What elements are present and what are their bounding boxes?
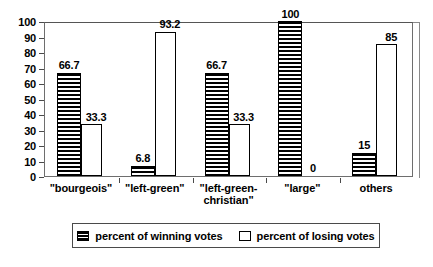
outer-frame-right bbox=[419, 22, 420, 178]
bar-losing-bourgeois bbox=[81, 124, 102, 176]
bar-value-losing-bourgeois: 33.3 bbox=[77, 112, 115, 123]
x-axis-label-bourgeois: "bourgeois" bbox=[44, 182, 118, 194]
y-axis: 100 90 80 70 60 50 40 30 20 10 0 bbox=[0, 22, 36, 177]
hatched-swatch-icon bbox=[77, 231, 89, 241]
x-axis-label-line-1: "left-green- bbox=[200, 182, 258, 194]
legend: percent of winning votes percent of losi… bbox=[72, 223, 380, 248]
legend-label-losing: percent of losing votes bbox=[257, 230, 375, 242]
y-tick-label-60: 60 bbox=[0, 79, 36, 90]
plot-area: 66.7 33.3 6.8 93.2 66.7 33.3 100 bbox=[44, 22, 413, 177]
bar-winning-others bbox=[352, 153, 376, 176]
x-axis-label-left-green-christian: "left-green-christian" bbox=[192, 182, 266, 206]
plot-inner: 66.7 33.3 6.8 93.2 66.7 33.3 100 bbox=[45, 23, 412, 176]
legend-entry-winning: percent of winning votes bbox=[77, 230, 222, 242]
bar-group-left-green-christian: 66.7 33.3 bbox=[193, 23, 267, 176]
x-axis-label-left-green: "left-green" bbox=[118, 182, 192, 194]
y-tick-label-20: 20 bbox=[0, 141, 36, 152]
y-tick-label-10: 10 bbox=[0, 157, 36, 168]
x-axis-label-others: others bbox=[339, 182, 413, 194]
outer-frame-top bbox=[413, 22, 420, 23]
bar-value-winning-bourgeois: 66.7 bbox=[50, 60, 88, 71]
x-axis-labels: "bourgeois" "left-green" "left-green-chr… bbox=[44, 182, 413, 214]
y-tick-label-50: 50 bbox=[0, 95, 36, 106]
y-tick-label-30: 30 bbox=[0, 126, 36, 137]
y-tick-label-0: 0 bbox=[0, 172, 36, 183]
bar-value-losing-others: 85 bbox=[372, 32, 410, 43]
bar-value-losing-left-green-christian: 33.3 bbox=[225, 112, 263, 123]
bar-value-losing-large: 0 bbox=[302, 163, 323, 174]
bar-value-winning-left-green-christian: 66.7 bbox=[198, 60, 236, 71]
bar-winning-bourgeois bbox=[57, 73, 81, 176]
y-tick-label-80: 80 bbox=[0, 48, 36, 59]
bar-group-others: 15 85 bbox=[340, 23, 414, 176]
x-axis-label-line-2: christian" bbox=[203, 194, 253, 206]
y-tick-mark bbox=[39, 177, 44, 178]
bar-value-losing-left-green: 93.2 bbox=[151, 19, 189, 30]
y-tick-label-70: 70 bbox=[0, 64, 36, 75]
y-tick-label-90: 90 bbox=[0, 33, 36, 44]
bar-losing-left-green-christian bbox=[229, 124, 250, 176]
bar-winning-large bbox=[278, 21, 302, 176]
bar-winning-left-green bbox=[131, 166, 155, 177]
y-tick-label-40: 40 bbox=[0, 110, 36, 121]
legend-entry-losing: percent of losing votes bbox=[239, 230, 375, 242]
bar-group-bourgeois: 66.7 33.3 bbox=[45, 23, 119, 176]
x-axis-label-large: "large" bbox=[265, 182, 339, 194]
bar-group-large: 100 0 bbox=[266, 23, 340, 176]
bar-value-winning-large: 100 bbox=[271, 9, 309, 20]
y-tick-label-100: 100 bbox=[0, 17, 36, 28]
bar-chart: 100 90 80 70 60 50 40 30 20 10 0 66.7 bbox=[0, 0, 433, 267]
bar-losing-others bbox=[376, 44, 397, 176]
bar-value-winning-others: 15 bbox=[345, 140, 383, 151]
legend-label-winning: percent of winning votes bbox=[95, 230, 222, 242]
bar-value-winning-left-green: 6.8 bbox=[124, 153, 162, 164]
bar-group-left-green: 6.8 93.2 bbox=[119, 23, 193, 176]
open-swatch-icon bbox=[239, 231, 251, 241]
bar-winning-left-green-christian bbox=[205, 73, 229, 176]
